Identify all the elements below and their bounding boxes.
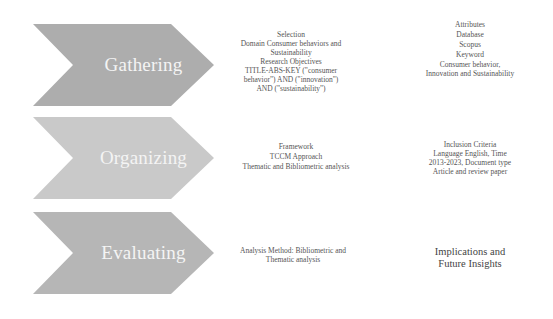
detail-line: TITLE-ABS-KEY ("consumer behavior") AND …	[236, 66, 346, 93]
implications-line: Implications and Future Insights	[428, 246, 512, 270]
attr-line: Database	[425, 30, 515, 39]
detail-line: Analysis Method: Bibliometric and Themat…	[228, 246, 358, 264]
detail-line: Selection	[236, 30, 346, 39]
stage-organizing-chevron: Organizing	[33, 117, 214, 199]
criteria-line: Language English, Time 2013-2023, Docume…	[427, 149, 513, 176]
criteria-line: Inclusion Criteria	[427, 140, 513, 149]
stage-evaluating-chevron: Evaluating	[33, 212, 214, 294]
organizing-details: Framework TCCM Approach Thematic and Bib…	[236, 142, 356, 171]
gathering-details: Selection Domain Consumer behaviors and …	[236, 30, 346, 93]
organizing-criteria: Inclusion Criteria Language English, Tim…	[427, 140, 513, 176]
stage-label: Evaluating	[73, 212, 214, 294]
attr-line: Consumer behavior, Innovation and Sustai…	[425, 60, 515, 78]
detail-line: Thematic and Bibliometric analysis	[236, 162, 356, 171]
gathering-attributes: Attributes Database Scopus Keyword Consu…	[425, 20, 515, 78]
detail-line: Research Objectives	[236, 57, 346, 66]
stage-gathering-chevron: Gathering	[33, 24, 214, 106]
evaluating-details: Analysis Method: Bibliometric and Themat…	[228, 246, 358, 264]
attr-line: Attributes	[425, 20, 515, 29]
evaluating-implications: Implications and Future Insights	[428, 246, 512, 270]
stage-label: Gathering	[73, 24, 214, 106]
detail-line: Domain Consumer behaviors and Sustainabi…	[236, 39, 346, 57]
stage-label: Organizing	[73, 117, 214, 199]
attr-line: Scopus	[425, 40, 515, 49]
attr-line: Keyword	[425, 50, 515, 59]
detail-line: TCCM Approach	[236, 152, 356, 161]
detail-line: Framework	[236, 142, 356, 151]
